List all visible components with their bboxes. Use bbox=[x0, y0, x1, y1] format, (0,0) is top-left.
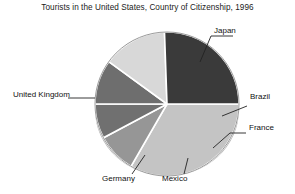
pie-slice-group bbox=[95, 32, 239, 176]
pie-label-mexico: Mexico bbox=[162, 175, 187, 183]
pie-slice-united-kingdom[interactable] bbox=[164, 32, 239, 104]
pie-chart-figure: Tourists in the United States, Country o… bbox=[0, 0, 295, 194]
pie-label-germany: Germany bbox=[102, 175, 135, 183]
pie-label-brazil: Brazil bbox=[250, 93, 270, 101]
pie-label-united-kingdom: United Kingdom bbox=[13, 91, 70, 99]
pie-label-france: France bbox=[249, 124, 274, 132]
pie-label-japan: Japan bbox=[214, 27, 236, 35]
